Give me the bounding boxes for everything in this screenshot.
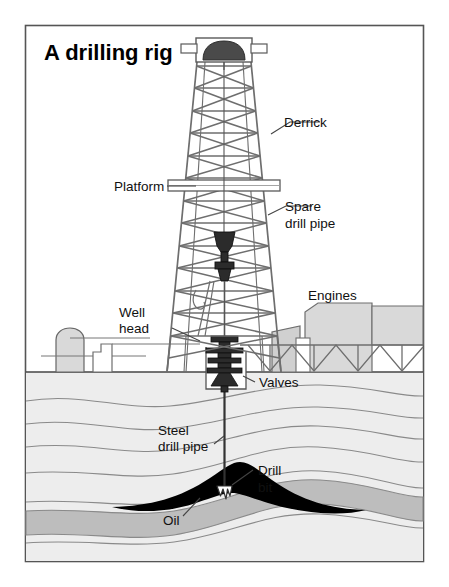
storage-tank xyxy=(56,328,84,372)
label-steel-drill-pipe-line1: Steel xyxy=(158,423,189,438)
drilling-rig-diagram: A drilling rig Derrick Platform Spare dr… xyxy=(0,0,449,587)
label-well-head-line2: head xyxy=(119,321,149,336)
label-spare-drill-pipe-line1: Spare xyxy=(285,199,321,214)
label-valves: Valves xyxy=(259,375,299,390)
label-platform: Platform xyxy=(114,179,164,194)
label-derrick: Derrick xyxy=(284,115,327,130)
label-engines: Engines xyxy=(308,288,357,303)
label-steel-drill-pipe-line2: drill pipe xyxy=(158,439,208,454)
engine-house-rear-wall xyxy=(372,306,423,345)
label-drill-bit-line2: bit xyxy=(258,480,273,495)
page-title: A drilling rig xyxy=(44,40,173,65)
label-spare-drill-pipe-line2: drill pipe xyxy=(285,216,335,231)
engine-house-small-box xyxy=(296,338,310,372)
engine-house xyxy=(305,303,372,372)
label-oil: Oil xyxy=(163,513,180,528)
label-well-head-line1: Well xyxy=(119,305,145,320)
label-drill-bit-line1: Drill xyxy=(258,463,281,478)
subsurface-section xyxy=(26,372,423,561)
